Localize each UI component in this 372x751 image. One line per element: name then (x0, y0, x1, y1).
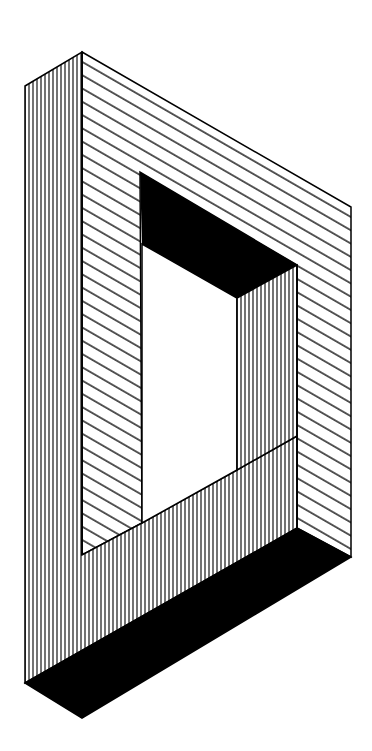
impossible-frame-figure (0, 0, 372, 751)
hole-right-face (237, 265, 297, 470)
